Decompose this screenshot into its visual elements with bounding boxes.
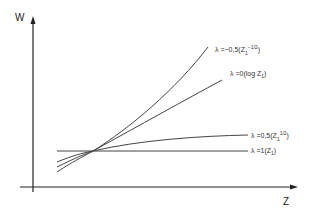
x-axis-arrow-icon (290, 185, 298, 190)
curve-lambda-neg-0.5 (57, 47, 208, 172)
label-lambda-0: λ =0(log Z1) (230, 70, 266, 79)
label-lambda-neg-0.5: λ =−0,5(Z1−1/2) (215, 44, 260, 56)
label-lambda-1: λ =1(Z1) (251, 147, 276, 156)
label-lambda-0.5: λ =0,5(Z11/2) (251, 130, 289, 142)
y-axis-label: W (15, 12, 24, 23)
curve-lambda-0.5 (57, 135, 248, 162)
box-cox-diagram (0, 0, 313, 220)
y-axis-arrow-icon (31, 16, 36, 24)
x-axis-label: Z (283, 196, 289, 207)
